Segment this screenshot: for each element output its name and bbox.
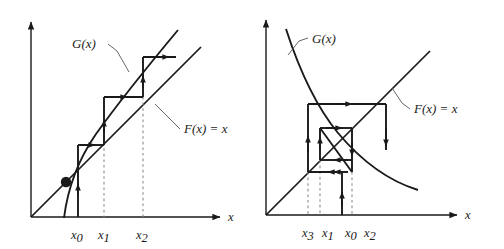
- fixed-point-dot-left: [61, 177, 71, 187]
- f-label-left: F(x) = x: [183, 121, 228, 136]
- leader-g-left: [108, 44, 129, 72]
- tick-x1-right: x1: [321, 226, 334, 243]
- tick-x0-right: x0: [344, 226, 358, 243]
- identity-line-left: [31, 47, 201, 217]
- tick-labels-left: x0 x1 x2: [70, 228, 148, 245]
- figure-canvas: G(x) F(x) = x x x0 x1 x2: [0, 0, 504, 249]
- tick-x2-left: x2: [135, 228, 148, 245]
- x-axis-label-left: x: [227, 210, 234, 224]
- f-label-right: F(x) = x: [413, 101, 458, 116]
- cobweb-plot-right: G(x) F(x) = x x x3 x1 x0 x2: [252, 0, 504, 249]
- g-label-left: G(x): [72, 36, 96, 51]
- tick-x0-left: x0: [70, 228, 84, 245]
- cobweb-panel-right: G(x) F(x) = x x x3 x1 x0 x2: [252, 0, 504, 249]
- x-axis-label-right: x: [464, 208, 471, 222]
- leader-f-right: [392, 88, 410, 109]
- cobweb-plot-left: G(x) F(x) = x x x0 x1 x2: [0, 0, 252, 249]
- cobweb-panel-left: G(x) F(x) = x x x0 x1 x2: [0, 0, 252, 249]
- cobweb-path-left: [78, 57, 176, 217]
- tick-x2-right: x2: [363, 226, 376, 243]
- cobweb-arrows-left: [78, 57, 169, 196]
- tick-x3-right: x3: [301, 226, 314, 243]
- tick-x1-left: x1: [97, 228, 110, 245]
- leader-f-left: [155, 104, 180, 129]
- tick-labels-right: x3 x1 x0 x2: [301, 226, 376, 243]
- g-label-right: G(x): [312, 31, 336, 46]
- identity-line-right: [266, 51, 430, 215]
